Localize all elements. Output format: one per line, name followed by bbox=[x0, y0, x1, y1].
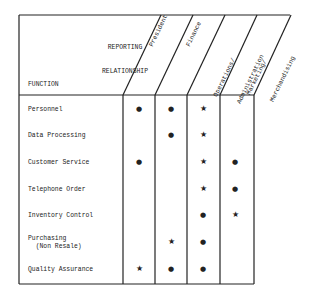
dot-icon: ● bbox=[136, 158, 142, 166]
function-heading: FUNCTION bbox=[28, 81, 59, 89]
star-icon: ★ bbox=[200, 105, 207, 113]
dot-icon: ● bbox=[200, 211, 206, 219]
dot-icon: ● bbox=[168, 105, 174, 113]
star-icon: ★ bbox=[136, 265, 143, 273]
dot-icon: ● bbox=[168, 265, 174, 273]
row-label: Inventory Control bbox=[28, 212, 93, 220]
dot-icon: ● bbox=[200, 238, 206, 246]
row-label: Quality Assurance bbox=[28, 266, 93, 274]
dot-icon: ● bbox=[200, 265, 206, 273]
dot-icon: ● bbox=[232, 158, 238, 166]
dot-icon: ● bbox=[168, 131, 174, 139]
row-label: Purchasing (Non Resale) bbox=[28, 235, 82, 251]
star-icon: ★ bbox=[168, 238, 175, 246]
star-icon: ★ bbox=[200, 185, 207, 193]
dot-icon: ● bbox=[232, 185, 238, 193]
row-label: Personnel bbox=[28, 106, 63, 114]
reporting-line-2: RELATIONSHIP bbox=[90, 68, 160, 76]
star-icon: ★ bbox=[232, 211, 239, 219]
dot-icon: ● bbox=[136, 105, 142, 113]
star-icon: ★ bbox=[200, 131, 207, 139]
star-icon: ★ bbox=[200, 158, 207, 166]
row-label: Customer Service bbox=[28, 159, 89, 167]
row-label: Data Processing bbox=[28, 132, 86, 140]
row-label: Telephone Order bbox=[28, 186, 86, 194]
